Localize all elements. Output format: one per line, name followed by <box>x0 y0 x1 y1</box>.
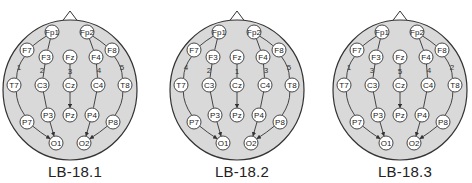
chain-order-number: 1 <box>235 67 240 76</box>
svg-text:P7: P7 <box>352 118 362 127</box>
svg-text:P3: P3 <box>373 111 383 120</box>
chain-order-number: 3 <box>370 66 375 75</box>
svg-text:P3: P3 <box>43 111 53 120</box>
electrode-f7: F7 <box>350 43 364 57</box>
chain-order-number: 3 <box>68 67 73 76</box>
svg-text:P4: P4 <box>87 111 97 120</box>
electrode-p4: P4 <box>252 108 266 122</box>
electrode-f4: F4 <box>89 50 103 64</box>
svg-text:C3: C3 <box>37 81 48 90</box>
svg-text:Fp2: Fp2 <box>410 28 424 37</box>
montage-caption: LB-18.3 <box>330 163 472 180</box>
svg-text:F7: F7 <box>189 46 199 55</box>
electrode-cz: Cz <box>63 78 77 92</box>
electrode-f3: F3 <box>39 50 53 64</box>
svg-text:P7: P7 <box>189 118 199 127</box>
electrode-fp2: Fp2 <box>247 25 261 39</box>
montage-lb-18-2: 42135Fp1Fp2F7F3FzF4F8T7C3CzC4T8P7P3PzP4P… <box>167 0 317 183</box>
svg-text:F3: F3 <box>208 53 218 62</box>
electrode-c3: C3 <box>35 78 49 92</box>
svg-text:F4: F4 <box>421 53 431 62</box>
electrode-c4: C4 <box>91 78 105 92</box>
svg-text:Cz: Cz <box>65 81 75 90</box>
svg-text:C4: C4 <box>93 81 104 90</box>
svg-text:Fz: Fz <box>396 53 405 62</box>
svg-text:Pz: Pz <box>65 111 74 120</box>
electrode-fp1: Fp1 <box>45 25 59 39</box>
chain-order-number: 5 <box>120 63 125 72</box>
electrode-p3: P3 <box>208 108 222 122</box>
electrode-fp2: Fp2 <box>80 25 94 39</box>
svg-text:Fp1: Fp1 <box>375 28 389 37</box>
svg-text:F8: F8 <box>437 46 447 55</box>
electrode-c3: C3 <box>202 78 216 92</box>
svg-text:Fp2: Fp2 <box>247 28 261 37</box>
electrode-p3: P3 <box>41 108 55 122</box>
electrode-o2: O2 <box>77 136 91 150</box>
electrode-t8: T8 <box>448 78 462 92</box>
electrode-p4: P4 <box>85 108 99 122</box>
svg-text:F7: F7 <box>352 46 362 55</box>
electrode-o1: O1 <box>379 136 393 150</box>
svg-text:F7: F7 <box>22 46 32 55</box>
electrode-c3: C3 <box>365 78 379 92</box>
electrode-p7: P7 <box>187 115 201 129</box>
svg-text:T8: T8 <box>450 81 460 90</box>
electrode-f7: F7 <box>187 43 201 57</box>
svg-text:P4: P4 <box>417 111 427 120</box>
svg-text:P4: P4 <box>254 111 264 120</box>
electrode-cz: Cz <box>393 78 407 92</box>
electrode-f7: F7 <box>20 43 34 57</box>
svg-text:F8: F8 <box>107 46 117 55</box>
electrode-f3: F3 <box>369 50 383 64</box>
montage-caption: LB-18.1 <box>0 163 150 180</box>
electrode-p8: P8 <box>106 115 120 129</box>
svg-text:C3: C3 <box>367 81 378 90</box>
chain-order-number: 2 <box>450 63 455 72</box>
svg-text:C4: C4 <box>260 81 271 90</box>
montage-lb-18-3: 13542Fp1Fp2F7F3FzF4F8T7C3CzC4T8P7P3PzP4P… <box>330 0 472 183</box>
chain-order-number: 4 <box>427 66 432 75</box>
svg-text:Pz: Pz <box>232 111 241 120</box>
electrode-f4: F4 <box>256 50 270 64</box>
electrode-cz: Cz <box>230 78 244 92</box>
svg-text:C4: C4 <box>423 81 434 90</box>
electrode-f8: F8 <box>435 43 449 57</box>
electrode-pz: Pz <box>393 108 407 122</box>
svg-text:Pz: Pz <box>395 111 404 120</box>
electrode-t8: T8 <box>118 78 132 92</box>
electrode-f8: F8 <box>105 43 119 57</box>
electrode-f8: F8 <box>272 43 286 57</box>
svg-text:F4: F4 <box>91 53 101 62</box>
electrode-t7: T7 <box>7 78 21 92</box>
svg-text:C3: C3 <box>204 81 215 90</box>
svg-text:T7: T7 <box>339 81 349 90</box>
svg-text:T7: T7 <box>176 81 186 90</box>
svg-text:P7: P7 <box>22 118 32 127</box>
electrode-o2: O2 <box>244 136 258 150</box>
svg-text:Fp1: Fp1 <box>45 28 59 37</box>
electrode-o1: O1 <box>49 136 63 150</box>
svg-text:Fp2: Fp2 <box>80 28 94 37</box>
montage-lb-18-1: 12345Fp1Fp2F7F3FzF4F8T7C3CzC4T8P7P3PzP4P… <box>0 0 150 183</box>
svg-text:F3: F3 <box>41 53 51 62</box>
svg-text:O1: O1 <box>51 139 62 148</box>
electrode-f3: F3 <box>206 50 220 64</box>
svg-text:P8: P8 <box>438 118 448 127</box>
montage-caption: LB-18.2 <box>167 163 317 180</box>
svg-text:O2: O2 <box>409 139 420 148</box>
electrode-fp1: Fp1 <box>375 25 389 39</box>
chain-order-number: 4 <box>97 66 102 75</box>
svg-text:F3: F3 <box>371 53 381 62</box>
electrode-t7: T7 <box>174 78 188 92</box>
svg-text:F4: F4 <box>258 53 268 62</box>
svg-text:O2: O2 <box>79 139 90 148</box>
svg-text:O2: O2 <box>246 139 257 148</box>
electrode-p3: P3 <box>371 108 385 122</box>
svg-text:T7: T7 <box>9 81 19 90</box>
electrode-o1: O1 <box>216 136 230 150</box>
svg-text:P8: P8 <box>275 118 285 127</box>
chain-order-number: 1 <box>17 63 22 72</box>
svg-text:Cz: Cz <box>395 81 405 90</box>
electrode-fz: Fz <box>393 50 407 64</box>
